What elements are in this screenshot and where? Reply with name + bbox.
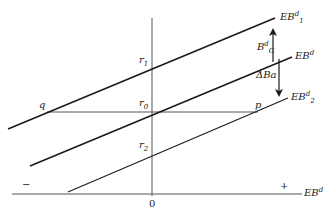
plus-sign: + [280,181,288,191]
eb1-label: EBd1 [280,12,304,22]
minus-sign: − [22,180,30,190]
p-label: p [255,100,261,110]
q-label: q [39,100,45,110]
origin-label: 0 [149,199,155,209]
delta-ba-label: ΔBa [256,70,277,80]
bg-arrow-label: BdG [257,42,274,52]
eb2-label: EBd2 [291,92,315,102]
x-axis-label: EBd [304,188,323,198]
eb-label: EBd [295,51,314,61]
r0-label: r0 [139,98,148,108]
r1-label: r1 [139,55,148,65]
r2-label: r2 [139,140,148,150]
